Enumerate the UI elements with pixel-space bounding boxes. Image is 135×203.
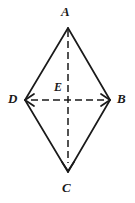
vertex-label-b: B (117, 92, 126, 105)
vertex-label-c: C (62, 181, 71, 194)
edge-A-B (68, 28, 110, 100)
edge-C-D (25, 100, 68, 172)
edge-B-C (68, 100, 110, 172)
vertex-label-a: A (61, 5, 70, 18)
rhombus-diagonals (31, 30, 104, 163)
rhombus-diagram-svg (0, 0, 135, 203)
vertex-label-d: D (8, 92, 17, 105)
geometry-figure: A B C D E (0, 0, 135, 203)
vertex-label-e: E (54, 81, 62, 94)
